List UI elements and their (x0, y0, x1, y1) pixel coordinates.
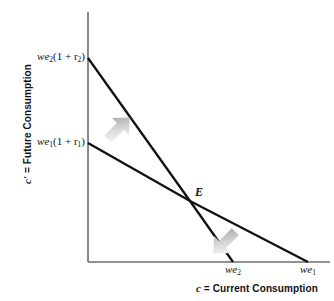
y-intercept-high-base: we (37, 50, 49, 62)
y-axis-title-text: = Future Consumption (22, 64, 33, 176)
x-intercept-outer-base: we (300, 263, 312, 275)
y-axis-title: c′ = Future Consumption (21, 44, 33, 204)
y-intercept-high-end: ) (81, 50, 85, 62)
y-intercept-low-tail: (1 + r (53, 135, 78, 147)
y-intercept-low-tail-subscript: 1 (78, 140, 82, 149)
plot-canvas (0, 0, 334, 301)
x-intercept-inner-subscript: 2 (237, 268, 241, 277)
y-intercept-low-base: we (37, 135, 49, 147)
y-intercept-label-high: we2(1 + r2) (3, 51, 85, 62)
x-axis-title: c = Current Consumption (196, 282, 318, 294)
budget-line-r1 (88, 143, 308, 262)
y-intercept-high-tail: (1 + r (53, 50, 78, 62)
y-intercept-low-end: ) (81, 135, 85, 147)
x-intercept-inner-base: we (225, 263, 237, 275)
x-intercept-outer-subscript: 1 (312, 268, 316, 277)
y-intercept-high-tail-subscript: 2 (78, 55, 82, 64)
y-intercept-high-subscript: 2 (49, 55, 53, 64)
budget-line-r2 (88, 58, 233, 262)
pivot-up-arrow-icon (99, 109, 138, 148)
y-axis-title-variable: c′ (21, 176, 33, 184)
y-intercept-label-low: we1(1 + r1) (3, 136, 85, 147)
x-intercept-label-inner: we2 (214, 264, 252, 275)
equilibrium-point-label: E (195, 186, 203, 198)
budget-constraint-figure: c′ = Future Consumption c = Current Cons… (0, 0, 334, 301)
x-intercept-label-outer: we1 (289, 264, 327, 275)
y-intercept-low-subscript: 1 (49, 140, 53, 149)
x-axis-title-text: = Current Consumption (201, 283, 318, 294)
